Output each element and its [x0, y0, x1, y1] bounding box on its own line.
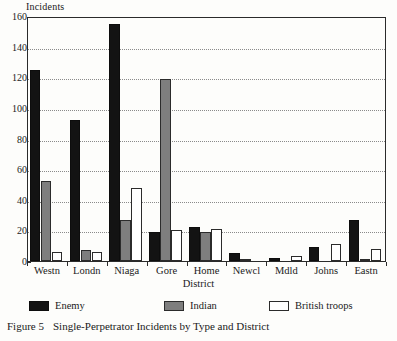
bar-group — [148, 18, 188, 261]
legend-label: British troops — [295, 300, 352, 311]
bar-enemy-niaga — [109, 24, 120, 261]
bar-indian-londn — [81, 250, 92, 261]
bar-indian-gore — [160, 79, 171, 261]
bar-british-troops-eastn — [371, 249, 382, 261]
bar-british-troops-gore — [171, 230, 182, 261]
bar-indian-eastn — [360, 259, 371, 261]
x-tick-label-johns: Johns — [314, 265, 338, 276]
y-tick-label: 80 — [5, 135, 27, 145]
plot-area — [27, 17, 386, 262]
bar-group — [188, 18, 228, 261]
bar-group — [227, 18, 267, 261]
x-tick-mark — [266, 262, 267, 266]
bar-british-troops-home — [211, 229, 222, 261]
x-tick-label-eastn: Eastn — [354, 265, 377, 276]
bar-british-troops-mdld — [291, 256, 302, 261]
legend-swatch-british-troops — [269, 301, 289, 311]
x-tick-mark — [27, 262, 28, 266]
bar-british-troops-westn — [52, 252, 63, 261]
x-tick-label-mdld: Mdld — [275, 265, 298, 276]
bar-british-troops-londn — [92, 252, 103, 261]
chart-legend: EnemyIndianBritish troops — [29, 300, 369, 316]
x-tick-mark — [386, 262, 387, 266]
x-tick-label-westn: Westn — [34, 265, 60, 276]
figure-number-label: Figure 5 — [7, 320, 44, 332]
x-tick-label-londn: Londn — [73, 265, 100, 276]
y-tick-label: 20 — [5, 226, 27, 236]
bar-enemy-eastn — [349, 220, 360, 261]
bar-group — [347, 18, 386, 261]
bar-indian-niaga — [120, 220, 131, 261]
x-tick-mark — [346, 262, 347, 266]
legend-swatch-indian — [164, 301, 184, 311]
bar-indian-home — [200, 232, 211, 261]
bar-enemy-londn — [70, 120, 81, 261]
bar-group — [307, 18, 347, 261]
legend-label: Indian — [190, 300, 217, 311]
legend-label: Enemy — [55, 300, 85, 311]
bar-british-troops-niaga — [131, 188, 142, 262]
x-tick-mark — [187, 262, 188, 266]
y-tick-label: 0 — [5, 257, 27, 267]
legend-item-british-troops: British troops — [269, 300, 352, 311]
x-tick-mark — [147, 262, 148, 266]
bar-enemy-newcl — [229, 253, 240, 261]
bar-group — [68, 18, 108, 261]
legend-item-enemy: Enemy — [29, 300, 85, 311]
x-axis-title: District — [0, 278, 397, 289]
y-tick-label: 100 — [5, 104, 27, 114]
bar-indian-newcl — [240, 259, 251, 261]
y-axis-ticks: 020406080100120140160 — [0, 17, 27, 262]
bar-group — [267, 18, 307, 261]
legend-item-indian: Indian — [164, 300, 217, 311]
figure-container: Incidents 020406080100120140160 WestnLon… — [0, 0, 397, 341]
figure-caption: Figure 5Single-Perpetrator Incidents by … — [7, 320, 269, 332]
bar-enemy-westn — [30, 70, 41, 261]
y-tick-label: 40 — [5, 196, 27, 206]
y-tick-label: 120 — [5, 73, 27, 83]
bars-layer — [28, 18, 385, 261]
x-tick-label-home: Home — [194, 265, 220, 276]
bar-enemy-home — [189, 227, 200, 261]
x-tick-mark — [107, 262, 108, 266]
x-tick-mark — [67, 262, 68, 266]
x-tick-label-gore: Gore — [156, 265, 177, 276]
x-tick-label-niaga: Niaga — [114, 265, 139, 276]
bar-group — [108, 18, 148, 261]
y-tick-label: 160 — [5, 12, 27, 22]
y-tick-label: 60 — [5, 165, 27, 175]
y-tick-label: 140 — [5, 43, 27, 53]
figure-caption-text: Single-Perpetrator Incidents by Type and… — [53, 320, 269, 332]
bar-british-troops-johns — [331, 244, 342, 261]
x-tick-mark — [226, 262, 227, 266]
bar-enemy-johns — [309, 247, 320, 261]
x-tick-mark — [306, 262, 307, 266]
bar-enemy-gore — [149, 232, 160, 261]
y-axis-title: Incidents — [26, 1, 64, 12]
x-tick-label-newcl: Newcl — [233, 265, 260, 276]
bar-indian-westn — [41, 181, 52, 261]
legend-swatch-enemy — [29, 301, 49, 311]
bar-enemy-mdld — [269, 258, 280, 261]
bar-group — [28, 18, 68, 261]
